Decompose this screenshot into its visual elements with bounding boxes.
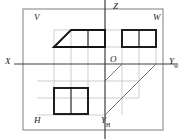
label-axis-y-w-subscript: w <box>174 63 178 69</box>
plane-frame <box>23 9 163 130</box>
label-plane-h: H <box>34 116 41 125</box>
label-axis-z: Z <box>113 2 118 11</box>
projection-diagram-canvas: V W H Z X O Yw YH <box>0 0 189 139</box>
label-axis-y-w: Yw <box>169 57 178 68</box>
v-view-trapezoid-top <box>54 30 105 47</box>
projection-diagonal-upper <box>105 64 122 81</box>
projection-diagonal-lower <box>105 64 156 115</box>
label-axis-x: X <box>5 57 11 66</box>
projection-rays <box>105 64 156 115</box>
label-plane-w: W <box>153 13 161 22</box>
label-axis-y-h: YH <box>101 116 110 127</box>
label-origin: O <box>110 55 117 64</box>
label-axis-y-h-subscript: H <box>106 122 110 128</box>
label-plane-v: V <box>34 13 40 22</box>
